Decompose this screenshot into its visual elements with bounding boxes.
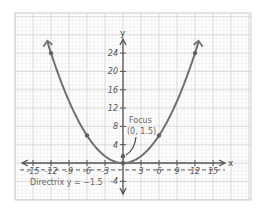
focus-point (121, 154, 125, 158)
curve-point (157, 133, 161, 137)
x-tick-label: -3 (101, 167, 109, 176)
y-tick-label: -4 (110, 177, 118, 186)
x-tick-label: -15 (26, 167, 39, 176)
focus-label: Focus (129, 116, 152, 125)
x-tick-label: 6 (156, 167, 161, 176)
y-tick-label: 12 (108, 104, 118, 113)
y-tick-label: 16 (108, 86, 118, 95)
y-tick-label: 8 (113, 122, 118, 131)
curve-point (121, 161, 125, 165)
x-tick-label: -6 (83, 167, 91, 176)
curve-point (49, 51, 53, 55)
x-tick-label: 12 (190, 167, 200, 176)
parabola-chart: -15-12-9-6-336912154812162024-4 x y Focu… (0, 0, 258, 215)
y-tick-label: 4 (113, 141, 118, 150)
curve-point (193, 51, 197, 55)
x-tick-label: 3 (138, 167, 143, 176)
curve-point (85, 133, 89, 137)
focus-coordinates: (0, 1.5) (127, 127, 156, 136)
x-tick-label: 9 (174, 167, 179, 176)
x-tick-label: 15 (208, 167, 218, 176)
x-tick-label: -12 (44, 167, 57, 176)
directrix-label: Directrix y = −1.5 (30, 178, 103, 187)
x-axis-label: x (228, 158, 234, 168)
x-tick-label: -9 (65, 167, 73, 176)
y-tick-label: 20 (108, 67, 118, 76)
y-axis-label: y (120, 28, 126, 38)
y-tick-label: 24 (108, 49, 118, 58)
